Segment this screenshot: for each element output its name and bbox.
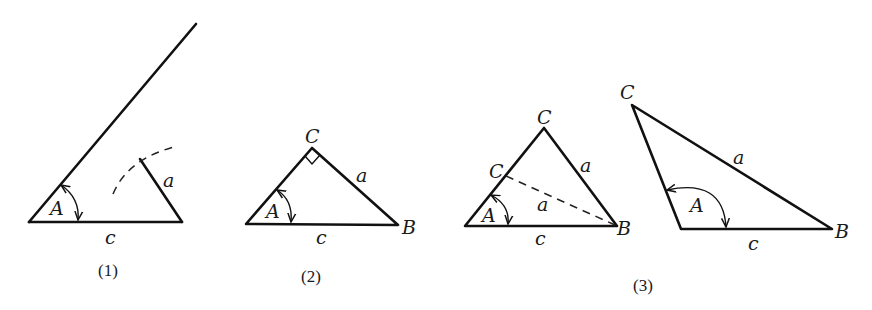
side-a [140,159,182,222]
figure-1-caption: (1) [98,261,118,280]
figure-2-caption: (2) [301,267,321,286]
side-c-label: c [316,226,327,248]
angle-A-label: A [264,200,280,222]
side-a-label: a [163,169,174,191]
vertex-C-alt-label: C [489,160,504,182]
triangle-cases-diagram: A a c (1) A C B a c (2) A C C B a a c (3… [0,0,872,310]
angle-A-label: A [480,204,496,226]
figure-3-caption: (3) [633,276,653,295]
right-angle-marker [305,155,320,164]
side-a-dashed-label: a [537,193,548,215]
vertex-B-label: B [834,220,849,242]
vertex-B-label: B [401,216,416,238]
side-c-label: c [535,227,546,249]
angle-A-label: A [688,194,704,216]
side-a-label: a [356,164,367,186]
figure-2: A C B a c (2) [246,125,416,286]
side-a-label: a [733,146,744,168]
figure-1: A a c (1) [29,24,196,280]
ray-from-A [29,24,196,222]
vertex-C-top-label: C [537,106,552,128]
vertex-B-label: B [616,217,631,239]
side-c-label: c [748,232,759,254]
obtuse-triangle [632,105,832,229]
vertex-C-label: C [305,125,320,147]
figure-3-left: A C C B a a c (3) [465,106,653,295]
vertex-C-label: C [620,81,635,103]
angle-A-label: A [48,197,64,219]
figure-3-right: A C B a c [620,81,849,254]
side-a-right-label: a [580,154,591,176]
side-c-label: c [105,226,116,248]
